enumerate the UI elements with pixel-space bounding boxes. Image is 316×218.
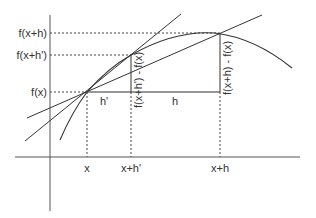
label-fxh: f(x+h) (19, 27, 47, 39)
derivative-diagram: f(x+h) f(x+h') f(x) h' h x x+h' x+h f(x+… (0, 0, 316, 218)
label-fx: f(x) (31, 86, 47, 98)
label-fxhp: f(x+h') (16, 49, 47, 61)
label-rise-large: f(x+h) - f(x) (221, 41, 233, 95)
label-xh: x+h (211, 162, 229, 174)
label-rise-small: f(x+h') - f(x) (132, 52, 144, 108)
label-xhp: x+h' (121, 162, 141, 174)
label-h: h (172, 95, 178, 107)
label-x: x (84, 162, 90, 174)
function-curve (60, 33, 292, 140)
label-hp: h' (100, 95, 108, 107)
